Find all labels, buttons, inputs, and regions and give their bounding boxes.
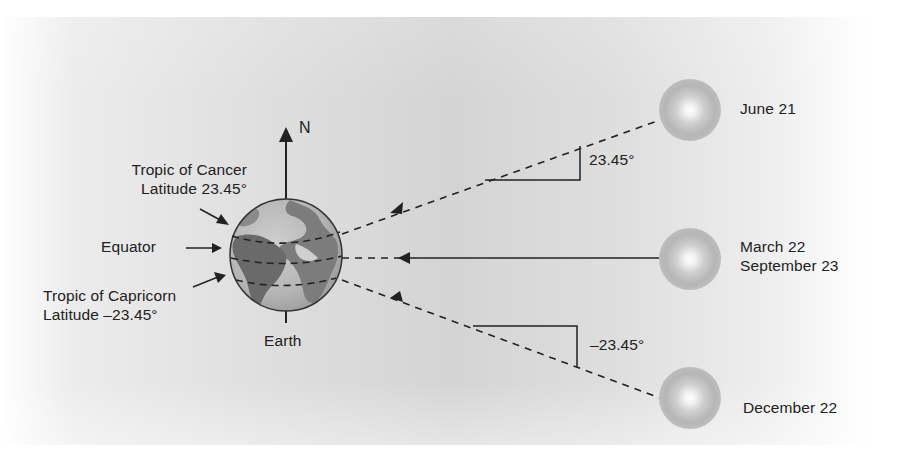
tropic-of-capricorn-name: Tropic of Capricorn bbox=[43, 286, 176, 305]
december-date-label: December 22 bbox=[743, 398, 837, 417]
sun-december-icon bbox=[659, 367, 721, 429]
june-sun-ray bbox=[342, 120, 660, 234]
north-axis-arrow bbox=[279, 127, 293, 199]
sun-equinox-icon bbox=[659, 228, 721, 290]
tropic-of-cancer-latitude: Latitude 23.45° bbox=[97, 179, 247, 198]
tropic-of-cancer-pointer bbox=[200, 209, 229, 225]
march-date: March 22 bbox=[740, 237, 839, 256]
earth-globe bbox=[230, 199, 342, 311]
equator-label: Equator bbox=[101, 237, 156, 256]
arrow-left-icon bbox=[398, 252, 410, 264]
equinox-sun-ray bbox=[342, 252, 659, 264]
equator-pointer bbox=[186, 243, 222, 253]
equinox-date-label: March 22 September 23 bbox=[740, 237, 839, 275]
arrow-left-icon bbox=[390, 202, 403, 214]
arrow-right-icon bbox=[216, 214, 229, 225]
arrow-up-icon bbox=[279, 127, 293, 142]
june-angle-label: 23.45° bbox=[589, 150, 635, 169]
sun-june-icon bbox=[659, 79, 721, 141]
tropic-of-capricorn-label: Tropic of Capricorn Latitude –23.45° bbox=[43, 286, 176, 324]
december-angle-label: –23.45° bbox=[590, 335, 644, 354]
june-angle-marker bbox=[485, 146, 580, 180]
tropic-of-cancer-name: Tropic of Cancer bbox=[97, 160, 247, 179]
arrow-right-icon bbox=[212, 243, 222, 253]
tropic-of-cancer-label: Tropic of Cancer Latitude 23.45° bbox=[97, 160, 247, 198]
september-date: September 23 bbox=[740, 256, 839, 275]
seasons-diagram bbox=[0, 0, 905, 467]
north-label: N bbox=[299, 118, 311, 137]
june-date-label: June 21 bbox=[740, 99, 796, 118]
tropic-of-capricorn-pointer bbox=[193, 272, 226, 287]
tropic-of-capricorn-latitude: Latitude –23.45° bbox=[43, 305, 176, 324]
earth-label: Earth bbox=[264, 331, 302, 350]
